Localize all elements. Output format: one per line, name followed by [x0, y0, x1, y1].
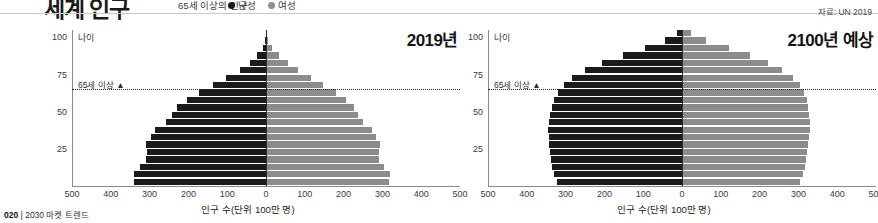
bar-male: [549, 119, 682, 125]
footer-separator: |: [21, 210, 23, 220]
bar-male: [166, 119, 266, 125]
footer: 020 | 2030 마켓 트렌드: [4, 208, 89, 220]
bar-male: [585, 67, 682, 73]
bar-male: [557, 179, 682, 185]
source-note: 자료: UN 2019: [818, 5, 872, 17]
legend-label-male: 남성: [238, 0, 256, 12]
bar-male: [564, 82, 682, 88]
x-tick-5: 0: [263, 189, 268, 199]
bar-male: [134, 171, 266, 177]
y-tick-25: 25: [57, 144, 67, 154]
x-tick-1: 400: [519, 189, 534, 199]
bar-female: [266, 171, 390, 177]
bar-male: [151, 134, 266, 140]
x-tick-9: 400: [414, 189, 429, 199]
bar-female: [266, 75, 311, 81]
bar-male: [177, 104, 266, 110]
bar-female: [682, 97, 807, 103]
bar-male: [572, 75, 682, 81]
bar-female: [682, 171, 803, 177]
bar-female: [682, 127, 810, 133]
bar-female: [682, 119, 810, 125]
bar-male: [552, 164, 682, 170]
age-65-divider: [488, 89, 876, 90]
chart-panel-2019: 100 75 50 25: [36, 26, 460, 196]
x-tick-1: 400: [103, 189, 118, 199]
x-tick-2: 300: [558, 189, 573, 199]
zero-axis-line: [682, 30, 683, 186]
y-tick-50: 50: [473, 107, 483, 117]
bar-female: [682, 52, 750, 58]
x-tick-2: 300: [142, 189, 157, 199]
bar-female: [682, 149, 807, 155]
x-tick-10: 500: [868, 189, 878, 199]
bar-female: [266, 67, 298, 73]
female-dot-icon: [268, 2, 275, 9]
bar-male: [146, 156, 266, 162]
bar-female: [682, 179, 800, 185]
bar-male: [250, 60, 266, 66]
male-dot-icon: [228, 2, 235, 9]
bar-female: [682, 104, 808, 110]
bar-female: [682, 37, 706, 43]
bar-female: [682, 156, 806, 162]
bar-female: [266, 141, 380, 147]
x-axis-line: [488, 186, 876, 187]
x-tick-5: 0: [679, 189, 684, 199]
y-axis-title: 나이: [494, 31, 510, 44]
y-tick-100: 100: [468, 32, 483, 42]
pyramid-plot: [488, 30, 876, 186]
x-axis-title: 인구 수(단위 100만 명): [617, 202, 710, 216]
bar-male: [146, 141, 266, 147]
chart-title: 2019년: [407, 26, 458, 51]
bar-female: [266, 119, 363, 125]
x-tick-7: 200: [336, 189, 351, 199]
x-tick-0: 500: [480, 189, 495, 199]
bar-female: [682, 45, 729, 51]
bar-female: [266, 179, 389, 185]
bar-female: [266, 104, 354, 110]
bar-female: [266, 82, 323, 88]
bar-female: [682, 164, 805, 170]
zero-axis-line: [266, 30, 267, 186]
bar-female: [682, 112, 809, 118]
y-tick-75: 75: [473, 70, 483, 80]
x-tick-4: 100: [220, 189, 235, 199]
x-tick-6: 100: [713, 189, 728, 199]
bar-female: [266, 52, 279, 58]
bar-male: [550, 149, 682, 155]
bar-male: [623, 52, 682, 58]
bar-male: [226, 75, 266, 81]
legend-label-female: 여성: [278, 0, 296, 12]
bar-male: [548, 127, 682, 133]
bar-male: [257, 52, 266, 58]
y-tick-100: 100: [52, 32, 67, 42]
x-tick-3: 200: [181, 189, 196, 199]
bar-female: [682, 75, 793, 81]
legend-item-male: 남성: [228, 0, 256, 12]
x-tick-4: 100: [636, 189, 651, 199]
bar-male: [549, 141, 682, 147]
bar-female: [266, 164, 384, 170]
page-title: 세계 인구: [44, 0, 129, 24]
bar-female: [266, 60, 288, 66]
bar-male: [549, 134, 682, 140]
bar-male: [172, 112, 266, 118]
infographic-page: 세계 인구 65세 이상의 인구 남성 여성 자료: UN 2019 100 7…: [0, 0, 878, 223]
bar-female: [266, 112, 358, 118]
age-65-label: 65세 이상 ▲: [78, 78, 125, 90]
x-axis-line: [72, 186, 460, 187]
bar-male: [155, 127, 266, 133]
footer-page-number: 020: [4, 210, 18, 220]
bar-female: [682, 82, 800, 88]
bar-female: [266, 156, 379, 162]
bar-female: [266, 127, 372, 133]
x-tick-7: 200: [752, 189, 767, 199]
age-65-label: 65세 이상 ▲: [494, 78, 541, 90]
bar-male: [602, 60, 682, 66]
x-tick-8: 300: [791, 189, 806, 199]
x-tick-8: 300: [375, 189, 390, 199]
pyramid-plot: [72, 30, 460, 186]
bar-female: [682, 67, 782, 73]
bar-male: [240, 67, 266, 73]
